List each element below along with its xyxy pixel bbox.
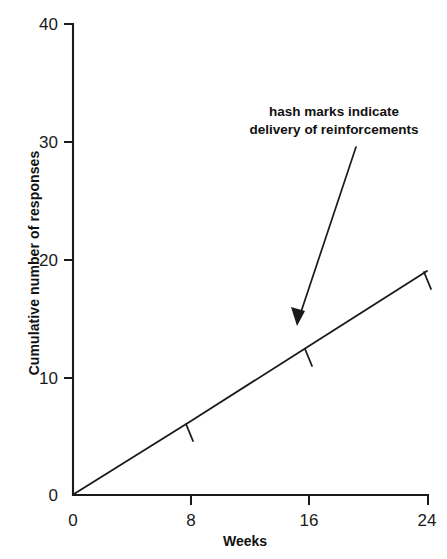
x-tick-label-8: 8 [171,512,211,529]
x-axis-ticks [191,495,428,505]
x-tick-label-0: 0 [53,512,93,529]
hash-mark-week-8 [186,424,193,441]
hash-mark-week-16 [305,349,312,366]
chart-plot-area [0,0,447,559]
y-tick-label-40: 40 [18,16,58,33]
annotation-note-line-2: delivery of reinforcements [238,121,430,139]
annotation-arrow-shaft [300,147,356,315]
annotation-note-line-1: hash marks indicate [238,103,430,121]
x-tick-label-24: 24 [407,512,447,529]
annotation-note: hash marks indicate delivery of reinforc… [238,103,430,139]
y-axis-title: Cumulative number of responses [26,133,42,393]
hash-mark-week-24 [424,272,431,289]
cumulative-response-line [74,271,427,494]
hash-marks-group [186,272,431,441]
annotation-arrow [291,147,356,326]
x-axis-title: Weeks [165,533,325,549]
chart-figure: 40 30 20 10 0 0 8 16 24 Cumulative numbe… [0,0,447,559]
y-tick-label-0: 0 [18,487,58,504]
x-tick-label-16: 16 [289,512,329,529]
annotation-arrow-head [291,307,305,326]
y-axis-ticks [64,24,73,378]
